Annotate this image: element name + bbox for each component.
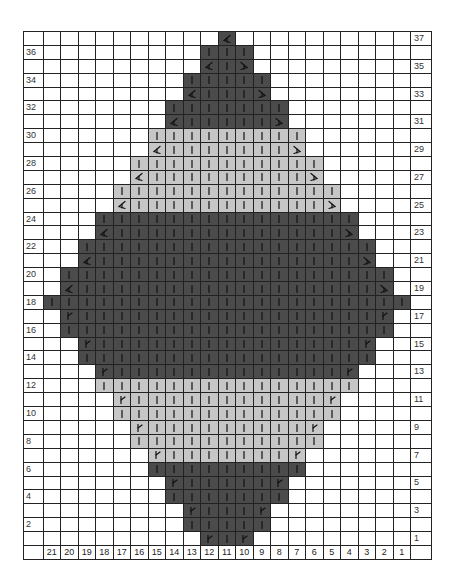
knit-stitch-icon xyxy=(239,172,249,182)
stitch-cell xyxy=(148,420,166,434)
stitch-cell xyxy=(148,59,166,73)
knit-stitch-icon xyxy=(292,131,302,141)
column-number: 19 xyxy=(78,545,96,559)
stitch-cell xyxy=(131,448,149,462)
stitch-cell xyxy=(166,157,184,171)
knit-stitch-icon xyxy=(117,353,127,363)
stitch-cell xyxy=(236,490,254,504)
knit-stitch-icon xyxy=(362,270,372,280)
stitch-cell xyxy=(218,129,236,143)
stitch-cell xyxy=(323,420,341,434)
stitch-cell xyxy=(131,115,149,129)
stitch-cell xyxy=(236,254,254,268)
stitch-cell xyxy=(236,115,254,129)
stitch-cell xyxy=(271,170,289,184)
stitch-cell xyxy=(358,226,376,240)
knit-stitch-icon xyxy=(274,464,284,474)
row-number-left xyxy=(24,170,44,184)
stitch-cell xyxy=(183,504,201,518)
knit-stitch-icon xyxy=(169,381,179,391)
stitch-cell xyxy=(113,226,131,240)
row-number-left: 8 xyxy=(24,434,44,448)
chart-row: 37 xyxy=(24,32,432,46)
stitch-cell xyxy=(253,212,271,226)
knit-stitch-icon xyxy=(169,159,179,169)
stitch-cell xyxy=(183,45,201,59)
stitch-cell xyxy=(166,462,184,476)
stitch-cell xyxy=(218,282,236,296)
stitch-cell xyxy=(358,212,376,226)
knit-stitch-icon xyxy=(292,381,302,391)
stitch-cell xyxy=(323,295,341,309)
stitch-cell xyxy=(166,309,184,323)
stitch-cell xyxy=(96,365,114,379)
stitch-cell xyxy=(113,462,131,476)
stitch-cell xyxy=(358,532,376,546)
column-number: 3 xyxy=(358,545,376,559)
stitch-cell xyxy=(183,295,201,309)
knit-stitch-icon xyxy=(239,325,249,335)
stitch-cell xyxy=(166,351,184,365)
stitch-cell xyxy=(341,87,359,101)
stitch-cell xyxy=(236,212,254,226)
knit-stitch-icon xyxy=(204,381,214,391)
stitch-cell xyxy=(341,254,359,268)
knit-stitch-icon xyxy=(204,117,214,127)
increase-icon xyxy=(82,339,92,349)
knit-stitch-icon xyxy=(117,339,127,349)
knit-stitch-icon xyxy=(327,339,337,349)
knit-stitch-icon xyxy=(274,353,284,363)
knit-stitch-icon xyxy=(152,200,162,210)
stitch-cell xyxy=(253,198,271,212)
stitch-cell xyxy=(306,379,324,393)
stitch-cell xyxy=(341,240,359,254)
knit-stitch-icon xyxy=(239,520,249,530)
stitch-cell xyxy=(253,309,271,323)
stitch-cell xyxy=(96,420,114,434)
column-number: 18 xyxy=(96,545,114,559)
knit-stitch-icon xyxy=(187,297,197,307)
chart-row: 35 xyxy=(24,59,432,73)
row-number-right xyxy=(411,295,432,309)
stitch-cell xyxy=(393,448,411,462)
knit-stitch-icon xyxy=(204,103,214,113)
knit-stitch-icon xyxy=(82,284,92,294)
row-number-left xyxy=(24,365,44,379)
stitch-cell xyxy=(78,212,96,226)
knit-stitch-icon xyxy=(187,270,197,280)
stitch-cell xyxy=(43,379,61,393)
stitch-cell xyxy=(271,462,289,476)
column-number: 20 xyxy=(61,545,79,559)
knit-stitch-icon xyxy=(117,409,127,419)
stitch-cell xyxy=(148,407,166,421)
stitch-cell xyxy=(78,45,96,59)
knit-stitch-icon xyxy=(169,311,179,321)
stitch-cell xyxy=(393,101,411,115)
stitch-cell xyxy=(236,518,254,532)
stitch-cell xyxy=(113,170,131,184)
knit-stitch-icon xyxy=(204,228,214,238)
knit-stitch-icon xyxy=(257,353,267,363)
stitch-cell xyxy=(113,365,131,379)
stitch-cell xyxy=(43,518,61,532)
stitch-cell xyxy=(43,323,61,337)
knit-stitch-icon xyxy=(222,436,232,446)
stitch-cell xyxy=(148,115,166,129)
stitch-cell xyxy=(288,87,306,101)
knit-stitch-icon xyxy=(152,339,162,349)
knit-stitch-icon xyxy=(222,131,232,141)
stitch-cell xyxy=(148,490,166,504)
stitch-cell xyxy=(201,101,219,115)
stitch-cell xyxy=(323,254,341,268)
knit-stitch-icon xyxy=(152,172,162,182)
stitch-cell xyxy=(393,518,411,532)
stitch-cell xyxy=(148,254,166,268)
knit-stitch-icon xyxy=(204,284,214,294)
stitch-cell xyxy=(236,504,254,518)
knit-stitch-icon xyxy=(309,367,319,377)
stitch-cell xyxy=(376,115,394,129)
knit-stitch-icon xyxy=(169,450,179,460)
knit-stitch-icon xyxy=(82,325,92,335)
stitch-cell xyxy=(253,476,271,490)
knit-stitch-icon xyxy=(204,436,214,446)
